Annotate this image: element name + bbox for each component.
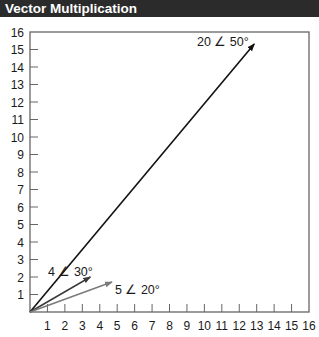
- x-tick-label: 16: [302, 319, 316, 333]
- y-tick-label: 9: [17, 148, 24, 162]
- y-tick-label: 8: [17, 166, 24, 180]
- vector-arrow: [30, 277, 90, 312]
- x-tick-label: 4: [96, 319, 103, 333]
- x-tick-label: 12: [233, 319, 247, 333]
- y-tick-label: 7: [17, 183, 24, 197]
- y-tick-label: 1: [17, 288, 24, 302]
- y-tick-label: 6: [17, 201, 24, 215]
- vector-label: 5 ∠ 20°: [115, 283, 160, 297]
- x-tick-label: 9: [184, 319, 191, 333]
- x-tick-label: 10: [198, 319, 212, 333]
- x-tick-label: 2: [62, 319, 69, 333]
- y-tick-label: 10: [11, 131, 25, 145]
- vector-labels: 20 ∠ 50°4 ∠ 30°5 ∠ 20°: [48, 35, 249, 297]
- y-axis: 12345678910111213141516: [11, 26, 38, 303]
- x-tick-label: 11: [216, 319, 229, 333]
- y-tick-label: 11: [12, 113, 25, 127]
- x-tick-label: 15: [285, 319, 299, 333]
- x-axis: 12345678910111213141516: [44, 304, 316, 333]
- x-tick-label: 13: [250, 319, 264, 333]
- y-tick-label: 14: [11, 61, 25, 75]
- x-tick-label: 6: [131, 319, 138, 333]
- y-tick-label: 15: [11, 43, 25, 57]
- x-tick-label: 14: [267, 319, 281, 333]
- y-tick-label: 5: [17, 218, 24, 232]
- vector-label: 4 ∠ 30°: [48, 265, 93, 279]
- y-tick-label: 12: [11, 96, 25, 110]
- vector-label: 20 ∠ 50°: [197, 35, 249, 49]
- y-tick-label: 3: [17, 253, 24, 267]
- vector-chart: 12345678910111213141516 1234567891011121…: [0, 0, 319, 337]
- x-tick-label: 3: [79, 319, 86, 333]
- x-tick-label: 1: [44, 319, 51, 333]
- y-tick-label: 4: [17, 236, 24, 250]
- y-tick-label: 16: [11, 26, 25, 40]
- x-tick-label: 8: [166, 319, 173, 333]
- x-tick-label: 5: [114, 319, 121, 333]
- y-tick-label: 13: [11, 78, 25, 92]
- y-tick-label: 2: [17, 271, 24, 285]
- x-tick-label: 7: [149, 319, 156, 333]
